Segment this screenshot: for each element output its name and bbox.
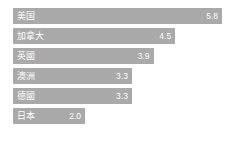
bar-row: 加拿大 4.5 — [13, 28, 241, 44]
bar-japan[interactable]: 日本 2.0 — [13, 108, 85, 124]
bar-canada[interactable]: 加拿大 4.5 — [13, 28, 175, 44]
bar-uk[interactable]: 英國 3.9 — [13, 48, 154, 64]
bar-value: 3.3 — [106, 68, 128, 84]
bar-label: 德國 — [17, 88, 35, 104]
bar-label: 日本 — [17, 108, 35, 124]
bar-value: 4.5 — [149, 28, 171, 44]
bar-row: 英國 3.9 — [13, 48, 241, 64]
bar-value: 3.9 — [128, 48, 150, 64]
bar-row: 澳洲 3.3 — [13, 68, 241, 84]
bar-chart: 美国 5.8 加拿大 4.5 英國 3.9 澳洲 3.3 德國 3.3 日本 2… — [0, 0, 241, 143]
bar-germany[interactable]: 德國 3.3 — [13, 88, 132, 104]
bar-row: 德國 3.3 — [13, 88, 241, 104]
bar-value: 2.0 — [59, 108, 81, 124]
bar-row: 日本 2.0 — [13, 108, 241, 124]
bar-row: 美国 5.8 — [13, 8, 241, 24]
bar-label: 美国 — [17, 8, 35, 24]
bar-usa[interactable]: 美国 5.8 — [13, 8, 222, 24]
bar-australia[interactable]: 澳洲 3.3 — [13, 68, 132, 84]
bar-value: 3.3 — [106, 88, 128, 104]
bar-label: 澳洲 — [17, 68, 35, 84]
bar-value: 5.8 — [196, 8, 218, 24]
bar-label: 英國 — [17, 48, 35, 64]
bar-label: 加拿大 — [17, 28, 44, 44]
